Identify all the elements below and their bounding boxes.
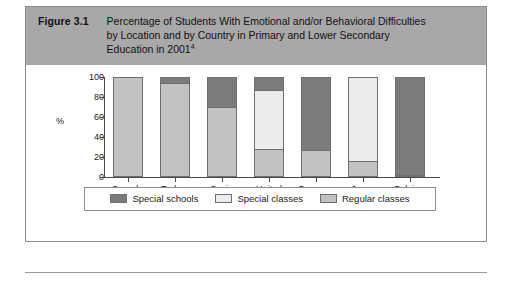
bar-canada[interactable] bbox=[113, 77, 143, 177]
bar-segment-regular-classes bbox=[114, 78, 142, 176]
plot-area bbox=[104, 77, 434, 177]
y-tick-label-40: 40 bbox=[70, 132, 104, 142]
bar-japan[interactable] bbox=[348, 77, 378, 177]
x-axis-line bbox=[104, 177, 440, 178]
bar-segment-regular-classes bbox=[396, 175, 424, 176]
x-tick-mark-1 bbox=[175, 178, 176, 182]
x-tick-mark-6 bbox=[410, 178, 411, 182]
bar-germany[interactable] bbox=[301, 77, 331, 177]
figure-footnote-marker: 4 bbox=[191, 43, 195, 50]
figure-title: Percentage of Students With Emotional an… bbox=[107, 14, 437, 57]
y-tick-label-0: 0 bbox=[70, 172, 104, 182]
bar-turkey[interactable] bbox=[160, 77, 190, 177]
y-axis-label: % bbox=[56, 116, 64, 126]
figure-title-text: Percentage of Students With Emotional an… bbox=[107, 15, 426, 55]
bar-united[interactable] bbox=[254, 77, 284, 177]
figure-container: Figure 3.1 Percentage of Students With E… bbox=[25, 6, 487, 242]
bar-segment-special-classes bbox=[349, 78, 377, 161]
y-tick-label-80: 80 bbox=[70, 92, 104, 102]
legend-swatch-icon bbox=[110, 194, 127, 203]
y-tick-label-20: 20 bbox=[70, 152, 104, 162]
bar-belgium[interactable] bbox=[395, 77, 425, 177]
bar-segment-regular-classes bbox=[349, 161, 377, 176]
legend-item-regular-classes[interactable]: Regular classes bbox=[320, 193, 410, 204]
x-tick-mark-5 bbox=[363, 178, 364, 182]
x-tick-mark-4 bbox=[316, 178, 317, 182]
bar-segment-regular-classes bbox=[255, 149, 283, 175]
bar-segment-special-schools bbox=[208, 78, 236, 107]
legend-swatch-icon bbox=[320, 194, 337, 203]
legend-label: Regular classes bbox=[342, 193, 410, 204]
x-tick-mark-2 bbox=[222, 178, 223, 182]
y-tick-label-100: 100 bbox=[70, 72, 104, 82]
bar-segment-special-schools bbox=[396, 78, 424, 175]
legend-swatch-icon bbox=[215, 194, 232, 203]
bar-segment-regular-classes bbox=[208, 107, 236, 176]
bar-spain[interactable] bbox=[207, 77, 237, 177]
bar-segment-regular-classes bbox=[302, 150, 330, 175]
y-tick-label-60: 60 bbox=[70, 112, 104, 122]
legend-item-special-schools[interactable]: Special schools bbox=[110, 193, 198, 204]
footer-rule bbox=[25, 272, 487, 273]
bar-segment-special-schools bbox=[255, 78, 283, 91]
figure-header: Figure 3.1 Percentage of Students With E… bbox=[26, 7, 486, 65]
figure-number: Figure 3.1 bbox=[38, 14, 89, 27]
chart-legend: Special schoolsSpecial classesRegular cl… bbox=[84, 187, 436, 211]
legend-label: Special classes bbox=[237, 193, 302, 204]
bar-segment-special-classes bbox=[255, 90, 283, 149]
bar-segment-regular-classes bbox=[161, 83, 189, 175]
y-tick-mark-0 bbox=[100, 177, 104, 178]
x-tick-mark-0 bbox=[128, 178, 129, 182]
bar-segment-special-schools bbox=[302, 78, 330, 151]
legend-item-special-classes[interactable]: Special classes bbox=[215, 193, 302, 204]
legend-label: Special schools bbox=[132, 193, 198, 204]
x-tick-mark-3 bbox=[269, 178, 270, 182]
